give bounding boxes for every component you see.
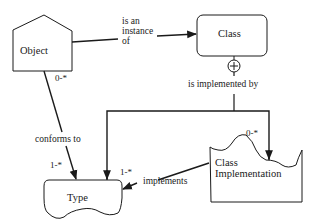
diagram-canvas: Object Class Type Class Implementation i… — [0, 0, 316, 224]
instance-of-label-line3: of — [122, 36, 130, 47]
implements-label: implements — [143, 176, 187, 187]
multiplicity-object: 0-* — [55, 73, 67, 84]
type-label: Type — [67, 193, 88, 204]
circle-plus-icon — [228, 56, 240, 76]
class-implementation-label-line1: Class — [215, 158, 238, 169]
instance-of-label-line2: instance — [122, 26, 153, 37]
instance-of-label-line1: is an — [122, 16, 140, 27]
object-label: Object — [20, 46, 48, 57]
multiplicity-type-conforms: 1-* — [50, 160, 62, 171]
implemented-by-label: is implemented by — [188, 79, 258, 90]
multiplicity-class-implementation: 0-* — [246, 128, 258, 139]
multiplicity-type-implemented: 1-* — [120, 167, 132, 178]
class-label: Class — [218, 29, 241, 40]
conforms-to-label: conforms to — [35, 134, 81, 145]
object-node[interactable] — [13, 15, 72, 71]
class-implementation-label-line2: Implementation — [215, 169, 281, 180]
diagram-shapes — [0, 0, 316, 224]
